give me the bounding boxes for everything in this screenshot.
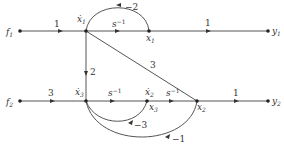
node-x1dot [84,29,88,33]
label-f1: f1 [5,27,13,38]
arrow-icon [58,29,63,33]
label-y2: y2 [271,96,281,107]
arrow-icon [50,99,55,103]
node-f1 [18,29,22,33]
label-x1dot: ẋ1 [77,14,86,25]
node-f2 [18,99,22,103]
gain-x1-y1: 1 [205,18,211,28]
arrow-icon [169,99,174,103]
label-x3dot: ẋ3 [75,87,84,98]
gain-f1-x1dot: 1 [54,19,60,29]
arrow-icon [206,29,211,33]
gain-x1-x1dot: −2 [125,2,138,12]
edge-x2-x3dot-feedback [86,101,197,137]
node-labels: f1 ẋ1 x1 y1 f2 ẋ3 ẋ2 x3 x2 y2 [5,14,281,113]
arrow-icon [84,71,88,76]
gain-x3dot-x2dot: s−1 [108,87,121,98]
gain-x1dot-x3dot: 2 [90,67,96,77]
label-f2: f2 [5,97,13,108]
arrow-icon [128,120,133,125]
gain-x3-x3dot: −3 [134,120,148,130]
arrow-icon [165,134,170,139]
gain-f2-x3dot: 3 [48,88,54,98]
label-y1: y1 [271,26,281,37]
node-x3dot [84,99,88,103]
gain-x3-x2: s−1 [166,87,179,98]
label-x2dot: ẋ2 [145,87,154,98]
arrow-icon [116,3,121,7]
edge-x1dot-x2 [86,31,197,101]
gain-x1dot-x2: 3 [150,60,156,70]
gain-x2-y2: 1 [233,88,239,98]
arrow-icon [234,99,239,103]
label-x3: x3 [149,102,158,113]
gain-x2-x3dot: −1 [172,134,185,144]
node-y1 [266,29,270,33]
gain-x1dot-x1: s−1 [112,18,125,29]
label-x2: x2 [197,102,206,113]
label-x1: x1 [146,33,155,44]
node-y2 [266,99,270,103]
signal-flow-graph: f1 ẋ1 x1 y1 f2 ẋ3 ẋ2 x3 x2 y2 1 s−1 1 −2… [0,0,284,150]
edge-x3-x3dot-feedback [86,101,147,121]
arrow-icon [115,29,120,33]
arrow-icon [110,99,115,103]
